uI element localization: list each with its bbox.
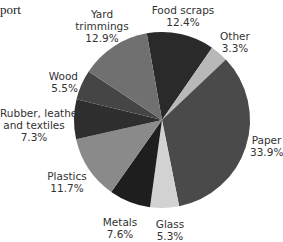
label-value: 33.9% <box>250 146 283 158</box>
label-text: Other <box>215 30 255 42</box>
label-food-scraps: Food scraps 12.4% <box>148 4 218 28</box>
label-value: 5.5% <box>28 82 78 94</box>
label-paper: Paper 33.9% <box>250 134 283 158</box>
label-value: 5.3% <box>150 230 190 242</box>
label-wood: Wood 5.5% <box>28 70 78 94</box>
label-metals: Metals 7.6% <box>100 216 140 240</box>
label-text: and textiles <box>0 119 68 131</box>
label-text: Paper <box>250 134 283 146</box>
label-other: Other 3.3% <box>215 30 255 54</box>
label-rubber-leather-textiles: Rubber, leather and textiles 7.3% <box>0 107 68 143</box>
label-yard-trimmings: Yard trimmings 12.9% <box>72 8 132 44</box>
label-plastics: Plastics 11.7% <box>42 170 92 194</box>
label-text: Plastics <box>42 170 92 182</box>
label-value: 7.6% <box>100 228 140 240</box>
label-value: 12.9% <box>72 32 132 44</box>
label-text: Yard <box>72 8 132 20</box>
label-value: 7.3% <box>0 131 68 143</box>
label-text: Wood <box>28 70 78 82</box>
label-value: 3.3% <box>215 42 255 54</box>
label-text: trimmings <box>72 20 132 32</box>
label-value: 12.4% <box>148 16 218 28</box>
label-text: Glass <box>150 218 190 230</box>
label-glass: Glass 5.3% <box>150 218 190 242</box>
label-value: 11.7% <box>42 182 92 194</box>
label-text: Rubber, leather <box>0 107 68 119</box>
label-text: Metals <box>100 216 140 228</box>
label-text: Food scraps <box>148 4 218 16</box>
